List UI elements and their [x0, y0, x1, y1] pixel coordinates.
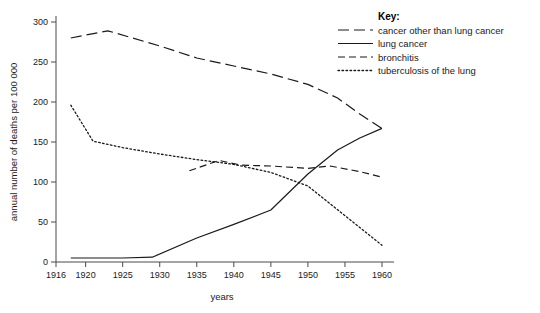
x-axis-title: years: [210, 291, 233, 302]
x-tick-label: 1930: [150, 270, 170, 280]
line-chart: 050100150200250300 191619201925193019351…: [0, 0, 540, 313]
y-tick-label: 100: [33, 177, 48, 187]
x-tick-label: 1960: [372, 270, 392, 280]
legend-label: lung cancer: [378, 38, 427, 49]
x-tick-label: 1955: [335, 270, 355, 280]
y-tick-label: 0: [43, 257, 48, 267]
x-tick-label: 1925: [113, 270, 133, 280]
x-tick-label: 1945: [261, 270, 281, 280]
chart-background: [0, 0, 540, 313]
y-tick-label: 200: [33, 97, 48, 107]
y-tick-label: 50: [38, 217, 48, 227]
x-tick-label: 1940: [224, 270, 244, 280]
legend-title: Key:: [378, 11, 400, 22]
x-tick-label: 1950: [298, 270, 318, 280]
y-axis-title: annual number of deaths per 100 000: [8, 63, 19, 221]
legend-label: bronchitis: [378, 52, 419, 63]
x-tick-label: 1935: [187, 270, 207, 280]
legend-label: cancer other than lung cancer: [378, 25, 504, 36]
y-tick-label: 250: [33, 57, 48, 67]
legend-label: tuberculosis of the lung: [378, 65, 476, 76]
y-tick-label: 150: [33, 137, 48, 147]
x-tick-label: 1920: [76, 270, 96, 280]
x-tick-label: 1916: [46, 270, 66, 280]
y-tick-label: 300: [33, 17, 48, 27]
chart-figure: 050100150200250300 191619201925193019351…: [0, 0, 540, 313]
